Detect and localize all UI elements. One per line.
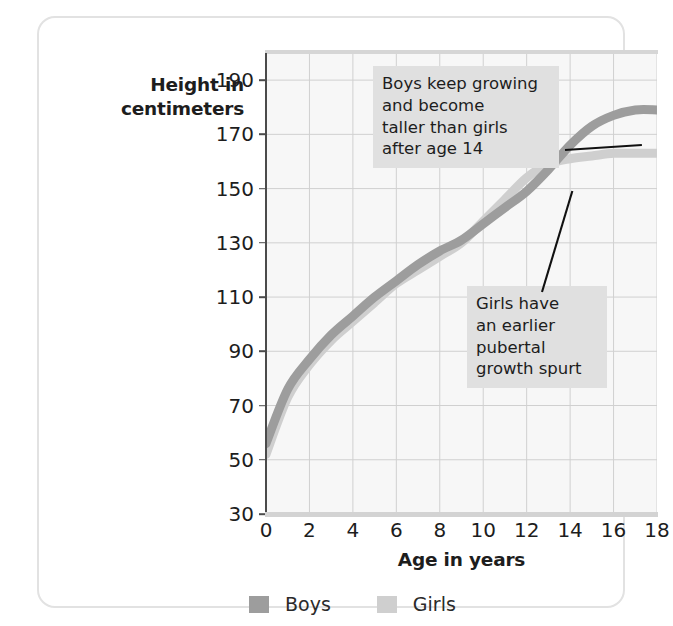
y-axis-ticks: 30507090110130150170190	[194, 53, 266, 514]
x-tick-label: 6	[390, 518, 403, 542]
y-tick-label: 190	[196, 68, 254, 92]
legend-item-girls[interactable]: Girls	[377, 593, 456, 615]
x-tick-label: 0	[260, 518, 273, 542]
x-axis-ticks: 024681012141618	[266, 518, 657, 546]
x-tick-label: 10	[470, 518, 495, 542]
x-tick-label: 2	[303, 518, 316, 542]
x-axis-title: Age in years	[266, 549, 657, 570]
annotation-boys-note: Boys keep growing and become taller than…	[373, 66, 559, 168]
x-axis-line	[265, 512, 658, 517]
legend-label: Girls	[413, 593, 456, 615]
y-tick-label: 90	[196, 339, 254, 363]
annotation-girls-note: Girls have an earlier pubertal growth sp…	[467, 286, 607, 388]
legend-label: Boys	[285, 593, 331, 615]
x-tick-label: 14	[557, 518, 582, 542]
x-tick-label: 4	[347, 518, 360, 542]
legend-item-boys[interactable]: Boys	[249, 593, 331, 615]
y-tick-label: 130	[196, 231, 254, 255]
x-tick-label: 8	[433, 518, 446, 542]
y-axis-line	[265, 53, 267, 514]
plot-top-border	[265, 50, 658, 54]
y-tick-label: 70	[196, 394, 254, 418]
y-tick-label: 30	[196, 502, 254, 526]
y-tick-label: 150	[196, 177, 254, 201]
y-tick-label: 110	[196, 285, 254, 309]
y-tick-label: 170	[196, 122, 254, 146]
x-tick-label: 12	[514, 518, 539, 542]
x-tick-label: 16	[601, 518, 626, 542]
legend-swatch-icon	[377, 596, 397, 613]
figure-card: Height in centimeters 305070901101301501…	[37, 16, 625, 608]
legend: BoysGirls	[249, 593, 456, 615]
x-tick-label: 18	[644, 518, 669, 542]
legend-swatch-icon	[249, 596, 269, 613]
y-tick-label: 50	[196, 448, 254, 472]
